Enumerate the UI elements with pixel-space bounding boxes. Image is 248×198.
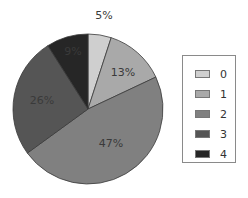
legend-item-4: 4: [195, 148, 227, 160]
legend-swatch-4: [195, 150, 210, 158]
pie-label-3: 26%: [30, 94, 54, 107]
pie-label-4: 9%: [64, 45, 81, 58]
legend: 0 1 2 3 4: [182, 55, 236, 163]
legend-swatch-1: [195, 90, 210, 98]
legend-item-1: 1: [195, 88, 227, 100]
legend-swatch-0: [195, 70, 210, 78]
legend-label-1: 1: [220, 88, 227, 101]
legend-label-3: 3: [220, 128, 227, 141]
pie-label-0: 5%: [95, 9, 112, 22]
legend-label-2: 2: [220, 108, 227, 121]
legend-label-4: 4: [220, 148, 227, 161]
legend-label-0: 0: [220, 68, 227, 81]
legend-item-0: 0: [195, 68, 227, 80]
legend-item-3: 3: [195, 128, 227, 140]
pie-slices: [13, 34, 163, 184]
legend-swatch-3: [195, 130, 210, 138]
legend-swatch-2: [195, 110, 210, 118]
pie-label-1: 13%: [111, 66, 135, 79]
legend-item-2: 2: [195, 108, 227, 120]
pie-label-2: 47%: [99, 137, 123, 150]
